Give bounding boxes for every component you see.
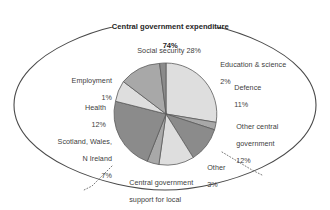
slice-label-scotland-wales-ni: Scotland, Wales, N Ireland 7% <box>38 129 112 189</box>
pie-slices <box>114 63 217 165</box>
pie-slice-social-security <box>166 63 217 122</box>
slice-label-defence-l1: Defence <box>234 83 261 92</box>
slice-label-local-authorities-l2: support for local <box>129 195 181 204</box>
slice-label-employment-l2: 1% <box>102 93 113 102</box>
slice-label-education-science-l1: Education & science <box>220 60 286 69</box>
slice-label-employment: Employment 1% <box>46 68 112 111</box>
slice-label-health-l2: 12% <box>91 120 106 129</box>
slice-label-scotland-wales-ni-l3: 7% <box>102 171 113 180</box>
slice-label-other-central-government-l2: government <box>236 139 274 148</box>
slice-label-social-security: Social security 28% <box>115 38 215 64</box>
pie-chart-figure: Central government expenditure 74% Socia… <box>0 0 330 210</box>
chart-title-line1: Central government expenditure <box>112 22 229 31</box>
slice-label-scotland-wales-ni-l2: N Ireland <box>82 154 112 163</box>
slice-label-defence-l2: 11% <box>234 100 248 109</box>
slice-label-defence: Defence 11% <box>226 75 296 118</box>
slice-label-social-security-text: Social security 28% <box>137 46 201 55</box>
slice-label-other-central-government-l1: Other central <box>236 122 278 131</box>
slice-label-local-authorities-l1: Central government <box>129 178 193 187</box>
slice-label-local-authorities: Central government support for local aut… <box>121 170 213 210</box>
slice-label-employment-l1: Employment <box>72 76 112 85</box>
